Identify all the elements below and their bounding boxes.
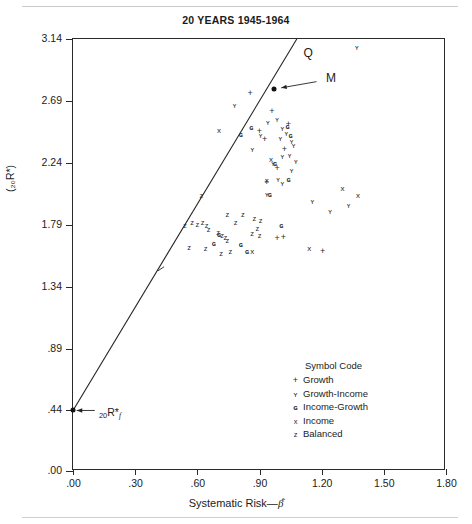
rf-arrow-head bbox=[77, 408, 82, 412]
data-point-income: x bbox=[217, 127, 221, 135]
data-point-balanced: z bbox=[252, 215, 256, 223]
legend-symbol-growth: + bbox=[288, 375, 303, 385]
data-point-balanced: z bbox=[250, 231, 254, 239]
m-arrow-head bbox=[281, 85, 287, 89]
x-axis-tick-label: 1.80 bbox=[436, 477, 456, 489]
data-point-income-growth: ɢ bbox=[239, 130, 243, 137]
data-point-income-growth: ɢ bbox=[279, 221, 283, 228]
data-point-growth-income: ʏ bbox=[233, 102, 237, 109]
data-point-balanced: z bbox=[187, 244, 191, 252]
legend-label-growth: Growth bbox=[303, 374, 334, 385]
data-point-balanced: z bbox=[219, 250, 223, 258]
market-line-label-q: Q bbox=[304, 46, 313, 60]
data-point-growth-income: ʏ bbox=[280, 180, 284, 187]
data-point-income: x bbox=[307, 245, 311, 253]
data-point-balanced: z bbox=[241, 211, 245, 219]
data-point-balanced: z bbox=[190, 220, 194, 228]
data-point-growth-income: ʏ bbox=[259, 132, 263, 139]
data-point-growth-income: ʏ bbox=[280, 152, 284, 159]
data-point-growth: + bbox=[248, 88, 253, 97]
data-point-balanced: z bbox=[258, 232, 262, 240]
data-point-growth-income: ʏ bbox=[294, 158, 298, 165]
legend-item-balanced: zBalanced bbox=[288, 428, 368, 439]
legend-item-growth: +Growth bbox=[288, 374, 368, 385]
data-point-balanced: z bbox=[195, 221, 199, 229]
data-point-income-growth: ɢ bbox=[239, 240, 243, 247]
data-point-growth-income: ʏ bbox=[290, 166, 294, 173]
y-axis-tick-label: 1.34 bbox=[42, 280, 62, 292]
data-point-income: x bbox=[250, 248, 254, 256]
data-point-growth: + bbox=[320, 246, 325, 255]
data-point-balanced: z bbox=[207, 226, 211, 234]
data-point-growth-income: ʏ bbox=[280, 125, 284, 132]
legend-symbol-income-growth: ɢ bbox=[288, 403, 303, 412]
chart-title: 20 YEARS 1945-1964 bbox=[0, 14, 472, 26]
data-point-balanced: z bbox=[226, 211, 230, 219]
data-point-growth-income: ʏ bbox=[278, 135, 282, 142]
legend-label-balanced: Balanced bbox=[303, 428, 343, 439]
legend: Symbol Code +GrowthʏGrowth-IncomeɢIncome… bbox=[288, 360, 368, 442]
x-axis-tick-label: .00 bbox=[66, 477, 81, 489]
legend-symbol-balanced: z bbox=[288, 430, 303, 439]
data-point-growth-income: ʏ bbox=[347, 202, 351, 209]
legend-title: Symbol Code bbox=[305, 360, 368, 371]
x-axis-tick-label: .90 bbox=[253, 477, 268, 489]
data-point-income: x bbox=[269, 156, 273, 164]
data-point-balanced: z bbox=[226, 237, 230, 245]
legend-label-income: Income bbox=[303, 415, 334, 426]
data-point-growth-income: ʏ bbox=[276, 176, 280, 183]
y-axis-tick-label: .89 bbox=[47, 342, 62, 354]
y-axis-subtitle: (₂₀R*) bbox=[4, 165, 16, 192]
data-point-income: x bbox=[340, 185, 344, 193]
data-point-growth-income: ʏ bbox=[328, 207, 332, 214]
data-point-income-growth: ɢ bbox=[289, 132, 293, 139]
data-point-income-growth: ɢ bbox=[212, 239, 216, 246]
data-point-income-growth: ɢ bbox=[273, 159, 277, 166]
data-point-balanced: z bbox=[234, 220, 238, 228]
data-point-balanced: z bbox=[229, 248, 233, 256]
y-axis-tick: 2.69 bbox=[66, 101, 73, 102]
legend-item-income-growth: ɢIncome-Growth bbox=[288, 401, 368, 412]
data-point-growth: + bbox=[274, 234, 279, 243]
y-axis-tick: 1.79 bbox=[66, 225, 73, 226]
x-axis-tick: 1.80 bbox=[446, 469, 447, 475]
data-point-income-growth: ɢ bbox=[285, 122, 289, 129]
data-point-growth-income: ʏ bbox=[275, 115, 279, 122]
x-axis-tick-label: .30 bbox=[128, 477, 143, 489]
y-axis-tick-label: .00 bbox=[47, 464, 62, 476]
y-axis-tick-label: 1.79 bbox=[42, 218, 62, 230]
data-point-growth-income: ʏ bbox=[355, 44, 359, 51]
legend-item-income: xIncome bbox=[288, 415, 368, 426]
legend-rows: +GrowthʏGrowth-IncomeɢIncome-GrowthxInco… bbox=[288, 374, 368, 439]
legend-item-growth-income: ʏGrowth-Income bbox=[288, 388, 368, 399]
y-axis-tick: .89 bbox=[66, 349, 73, 350]
data-point-growth-income: ʏ bbox=[311, 198, 315, 205]
y-axis-tick-label: .44 bbox=[47, 403, 62, 415]
data-point-growth-income: ʏ bbox=[292, 141, 296, 148]
riskfree-rate-label: 20R*f bbox=[99, 406, 121, 420]
data-point-income: x bbox=[356, 192, 360, 200]
y-axis-tick-label: 2.69 bbox=[42, 94, 62, 106]
market-portfolio-dot bbox=[272, 86, 277, 91]
data-point-income-growth: ɢ bbox=[268, 191, 272, 198]
y-axis-tick: 1.34 bbox=[66, 287, 73, 288]
data-point-growth-income: ʏ bbox=[288, 151, 292, 158]
plot-area: .00.44.891.341.792.242.693.14.00.30.60.9… bbox=[73, 39, 444, 469]
page-rule-top bbox=[22, 6, 458, 7]
y-axis-tick-label: 3.14 bbox=[42, 32, 62, 44]
legend-symbol-growth-income: ʏ bbox=[288, 390, 303, 399]
legend-label-growth-income: Growth-Income bbox=[303, 388, 368, 399]
data-point-income-growth: ɢ bbox=[286, 176, 290, 183]
data-point-income-growth: ɢ bbox=[249, 124, 253, 131]
data-point-growth: + bbox=[262, 135, 267, 144]
x-axis-tick-label: 1.20 bbox=[312, 477, 332, 489]
market-line-svg bbox=[73, 39, 446, 471]
data-point-balanced: z bbox=[200, 192, 204, 200]
plot-frame: .00.44.891.341.792.242.693.14.00.30.60.9… bbox=[72, 38, 445, 470]
legend-label-income-growth: Income-Growth bbox=[303, 401, 368, 412]
x-axis-tick-label: 1.50 bbox=[374, 477, 394, 489]
y-axis-tick: 3.14 bbox=[66, 39, 73, 40]
y-axis-tick-label: 2.24 bbox=[42, 156, 62, 168]
legend-symbol-income: x bbox=[288, 417, 303, 426]
data-point-income: x bbox=[265, 177, 269, 185]
